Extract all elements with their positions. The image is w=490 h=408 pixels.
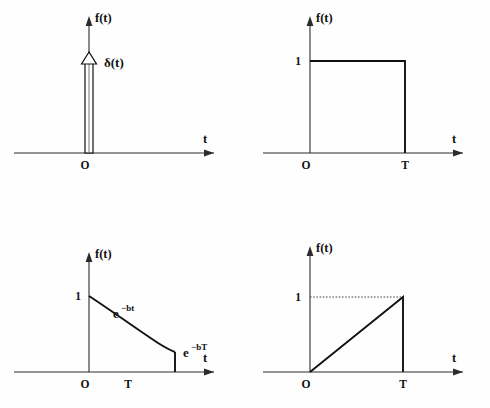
x-axis bbox=[14, 369, 214, 376]
endpoint-value-exponent: −bT bbox=[191, 342, 207, 352]
ramp-waveform bbox=[310, 297, 403, 372]
origin-label: O bbox=[81, 378, 90, 390]
amplitude-tick-label: 1 bbox=[295, 291, 301, 303]
x-axis bbox=[263, 150, 463, 157]
x-axis-label: t bbox=[203, 132, 208, 146]
amplitude-tick-label: 1 bbox=[295, 55, 301, 67]
x-axis bbox=[263, 369, 463, 376]
x-axis-label: t bbox=[452, 351, 457, 365]
y-axis bbox=[307, 246, 314, 372]
y-axis-label: f(t) bbox=[316, 11, 333, 25]
y-axis bbox=[86, 252, 93, 372]
x-axis-label: t bbox=[203, 351, 208, 365]
curve-equation-exponent: −bt bbox=[121, 303, 134, 313]
origin-label: O bbox=[302, 159, 311, 171]
duration-tick-label: T bbox=[399, 378, 407, 390]
y-axis-label: f(t) bbox=[316, 241, 333, 255]
x-axis bbox=[14, 150, 214, 157]
endpoint-value-base: e bbox=[183, 345, 189, 360]
pulse-waveform bbox=[310, 61, 405, 153]
origin-label: O bbox=[81, 159, 90, 171]
figure-sheet: f(t) t O δ(t) f(t) t O T 1 bbox=[0, 0, 490, 408]
curve-equation-label: e −bt bbox=[113, 303, 134, 321]
y-axis-label: f(t) bbox=[95, 247, 112, 261]
y-axis bbox=[307, 16, 314, 153]
y-axis-label: f(t) bbox=[95, 11, 112, 25]
amplitude-tick-label: 1 bbox=[75, 290, 81, 302]
origin-label: O bbox=[302, 378, 311, 390]
impulse-signal-label: δ(t) bbox=[104, 55, 124, 70]
duration-tick-label: T bbox=[401, 159, 409, 171]
panel-exponential-decay: f(t) t O T 1 e −bt e −bT bbox=[0, 204, 245, 408]
panel-ramp: f(t) t O T 1 bbox=[245, 204, 490, 408]
curve-equation-base: e bbox=[113, 306, 119, 321]
panel-rectangular-pulse: f(t) t O T 1 bbox=[245, 0, 490, 204]
x-axis-label: t bbox=[452, 132, 457, 146]
panel-unit-impulse: f(t) t O δ(t) bbox=[0, 0, 245, 204]
impulse-arrow bbox=[82, 52, 97, 153]
duration-tick-label: T bbox=[124, 378, 132, 390]
